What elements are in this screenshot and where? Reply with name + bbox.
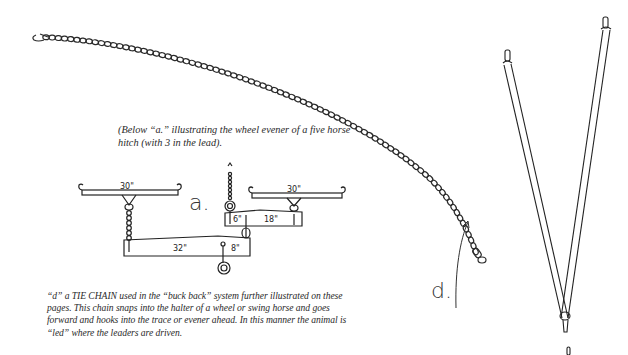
dim-right-singletree: 30" xyxy=(287,185,301,194)
tie-strap-drawing xyxy=(503,17,611,355)
dim-left-singletree: 30" xyxy=(120,182,134,191)
arrow-d xyxy=(456,221,469,308)
dim-main-evener-long: 32" xyxy=(173,244,187,253)
caption-tie-chain: “d” a TIE CHAIN used in the “buck back” … xyxy=(47,290,347,339)
dim-main-evener-short: 8" xyxy=(231,244,240,253)
dim-small-evener-long: 18" xyxy=(264,215,278,224)
label-a: a. xyxy=(189,190,209,215)
label-d: d. xyxy=(431,278,452,303)
wheel-evener-drawing xyxy=(79,163,345,274)
dim-small-evener-short: 6" xyxy=(233,215,242,224)
caption-wheel-evener: (Below “a.” illustrating the wheel evene… xyxy=(118,123,358,149)
